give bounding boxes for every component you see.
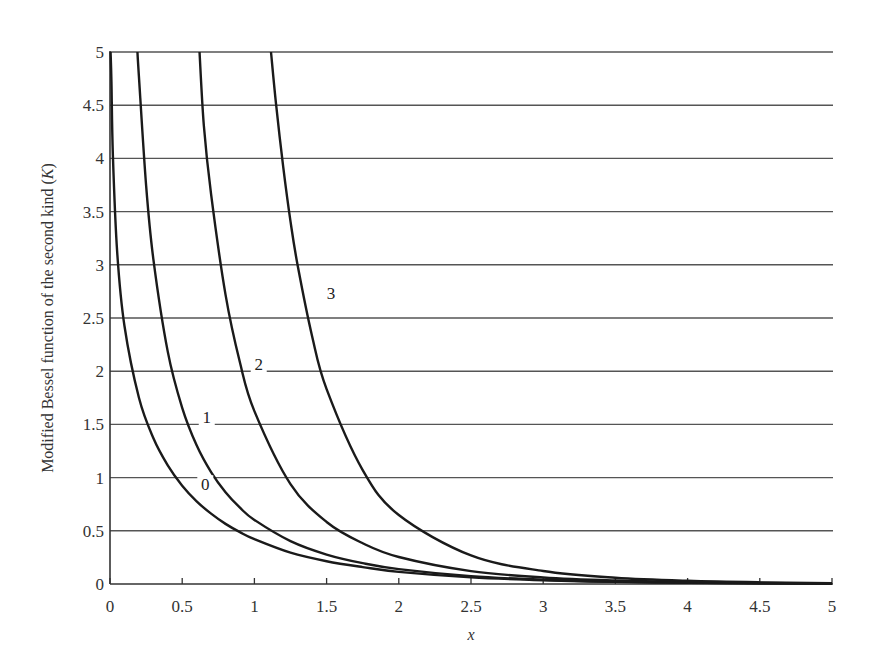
- x-axis-title: x: [466, 626, 474, 643]
- gridlines: [110, 52, 833, 531]
- y-tick-label: 3: [96, 256, 105, 275]
- x-tick-label: 5: [828, 597, 837, 616]
- y-tick-label: 0.5: [83, 522, 104, 541]
- curve-label-1: 1: [202, 408, 211, 427]
- y-tick-label: 5: [96, 43, 105, 62]
- curve-label-3: 3: [327, 284, 336, 303]
- x-tick-label: 2: [395, 597, 404, 616]
- x-tick-label: 1: [250, 597, 259, 616]
- y-tick-label: 1.5: [83, 415, 104, 434]
- y-tick-label: 2: [96, 362, 105, 381]
- x-tick-label: 2.5: [460, 597, 481, 616]
- curve-labels: 0123: [197, 284, 339, 495]
- y-tick-label: 0: [96, 575, 105, 594]
- x-tick-label: 4.5: [749, 597, 770, 616]
- y-tick-label: 4: [96, 149, 105, 168]
- tick-labels: 00.511.522.533.544.5500.511.522.533.544.…: [83, 43, 837, 616]
- x-tick-label: 0.5: [172, 597, 193, 616]
- curve-label-0: 0: [201, 475, 210, 494]
- x-tick-label: 3: [539, 597, 548, 616]
- x-tick-label: 3.5: [605, 597, 626, 616]
- y-tick-label: 3.5: [83, 203, 104, 222]
- y-axis-title: Modified Bessel function of the second k…: [39, 163, 57, 473]
- x-tick-label: 4: [683, 597, 692, 616]
- y-tick-label: 4.5: [83, 96, 104, 115]
- bessel-k-chart: 0123 00.511.522.533.544.5500.511.522.533…: [0, 0, 880, 666]
- y-tick-label: 1: [96, 469, 105, 488]
- y-tick-label: 2.5: [83, 309, 104, 328]
- x-tick-label: 1.5: [316, 597, 337, 616]
- curve-label-2: 2: [254, 355, 263, 374]
- x-tick-label: 0: [106, 597, 115, 616]
